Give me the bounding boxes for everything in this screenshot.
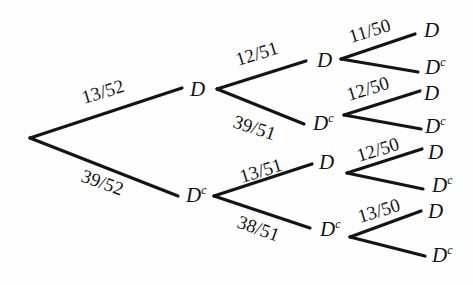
probability-tree-diagram: 13/5239/5212/5139/5113/5138/5111/5012/50… bbox=[0, 0, 473, 285]
outcome-node-defective: D bbox=[427, 140, 443, 164]
outcome-node-defective-complement: Dc bbox=[185, 183, 207, 207]
outcome-node-defective-complement: Dc bbox=[319, 217, 341, 241]
complement-superscript: c bbox=[328, 111, 334, 125]
outcome-node-defective: D bbox=[423, 18, 439, 42]
complement-superscript: c bbox=[335, 217, 341, 231]
complement-superscript: c bbox=[440, 114, 446, 128]
tree-branch bbox=[344, 115, 421, 129]
tree-branch bbox=[347, 173, 423, 189]
branch-probability: 11/50 bbox=[346, 14, 393, 47]
outcome-node-defective: D bbox=[423, 81, 439, 105]
outcome-node-defective: D bbox=[189, 77, 205, 101]
outcome-node-defective: D bbox=[318, 150, 334, 174]
outcome-node-defective-complement: Dc bbox=[431, 173, 453, 197]
probability-labels: 13/5239/5212/5139/5113/5138/5111/5012/50… bbox=[79, 14, 403, 245]
branch-probability: 12/51 bbox=[233, 37, 281, 70]
outcome-node-defective-complement: Dc bbox=[424, 55, 446, 79]
complement-superscript: c bbox=[447, 173, 453, 187]
outcome-node-defective: D bbox=[427, 199, 443, 223]
outcome-node-defective: D bbox=[316, 48, 332, 72]
outcome-node-defective-complement: Dc bbox=[424, 114, 446, 138]
branch-probability: 12/50 bbox=[344, 72, 392, 105]
branch-probability: 12/50 bbox=[354, 133, 402, 166]
outcome-nodes: DDcDDcDDcDDcDDcDDcDDc bbox=[185, 18, 453, 267]
complement-superscript: c bbox=[201, 183, 207, 197]
outcome-node-defective-complement: Dc bbox=[312, 111, 334, 135]
branch-probability: 39/52 bbox=[79, 165, 127, 200]
complement-superscript: c bbox=[440, 55, 446, 69]
outcome-node-defective-complement: Dc bbox=[431, 243, 453, 267]
tree-branch bbox=[341, 59, 418, 72]
tree-branch bbox=[350, 237, 425, 256]
tree-branch bbox=[217, 61, 306, 89]
complement-superscript: c bbox=[447, 243, 453, 257]
branch-probability: 39/51 bbox=[231, 111, 279, 144]
branch-probability: 13/52 bbox=[79, 75, 127, 108]
tree-canvas: 13/5239/5212/5139/5113/5138/5111/5012/50… bbox=[0, 0, 473, 285]
